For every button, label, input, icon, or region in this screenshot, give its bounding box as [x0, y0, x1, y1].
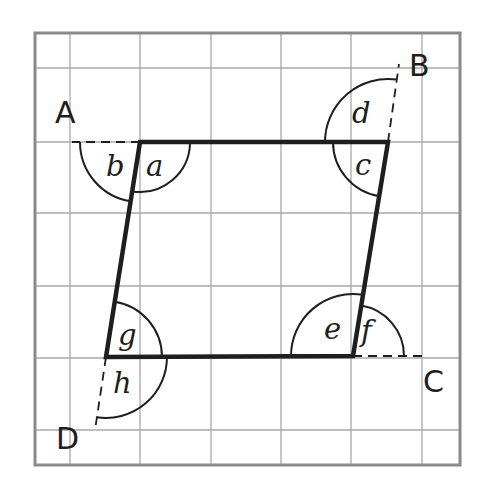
- angle-label-e: e: [324, 312, 341, 346]
- angle-label-a: a: [146, 149, 163, 183]
- angle-label-c: c: [355, 148, 371, 182]
- point-label-c: C: [423, 364, 444, 399]
- point-label-b: B: [409, 48, 430, 83]
- point-label-d: D: [56, 421, 79, 456]
- angle-label-d: d: [352, 96, 371, 130]
- point-label-a: A: [55, 95, 76, 130]
- angle-label-h: h: [113, 366, 132, 400]
- parallelogram-diagram: ABCD abcdefgh: [0, 0, 482, 486]
- angle-label-g: g: [118, 318, 137, 352]
- angle-label-b: b: [106, 149, 125, 183]
